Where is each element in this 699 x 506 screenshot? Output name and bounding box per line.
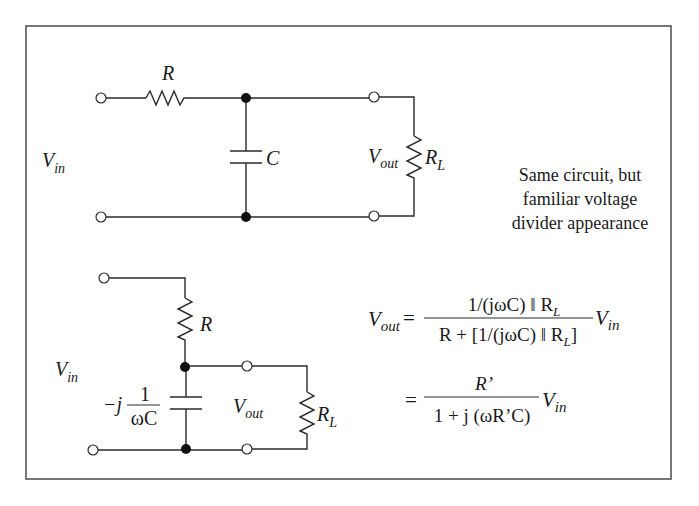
- impedance-denominator: ωC: [131, 407, 158, 429]
- circuit-diagram: R C Vin Vout RL Same circuit, but famili…: [0, 0, 699, 506]
- input-terminal-bottom: [96, 212, 106, 222]
- input-terminal-top: [96, 93, 106, 103]
- caption-line: familiar voltage: [523, 189, 637, 209]
- bottom-circuit: R Vin Vout RL −j 1 ωC: [55, 273, 337, 455]
- capacitor-label: C: [266, 147, 280, 169]
- eq2-denominator: 1 + j (ωR’C): [434, 405, 531, 427]
- junction-node: [180, 362, 190, 372]
- vin-label: Vin: [55, 358, 78, 385]
- output-terminal-bottom: [242, 444, 252, 454]
- caption-line: Same circuit, but: [519, 165, 641, 185]
- vout-label: Vout: [233, 395, 264, 421]
- rl-label: RL: [316, 403, 337, 430]
- junction-node: [181, 444, 191, 454]
- capacitor-icon: [170, 366, 202, 449]
- output-terminal-bottom: [369, 211, 379, 221]
- eq1-multiplier: Vin: [595, 306, 620, 333]
- wire: [109, 278, 185, 298]
- resistor-label: R: [161, 62, 174, 84]
- resistor-rl-icon: [379, 136, 421, 216]
- junction-node: [241, 93, 251, 103]
- impedance-numerator: 1: [140, 383, 150, 405]
- eq1-numerator: 1/(jωC) ‖ RL: [468, 294, 561, 319]
- caption-line: divider appearance: [512, 213, 648, 233]
- eq1-equals: =: [403, 306, 415, 330]
- eq2-numerator: R’: [474, 373, 493, 394]
- eq1-denominator: R + [1/(jωC) ‖ RL]: [439, 324, 577, 349]
- resistor-r-icon: [178, 298, 192, 366]
- wire: [379, 97, 414, 136]
- eq2-equals: =: [405, 388, 417, 412]
- vin-label: Vin: [42, 149, 65, 176]
- wire: [252, 366, 307, 392]
- resistor-r-icon: [146, 91, 187, 105]
- output-terminal-top: [242, 361, 252, 371]
- input-terminal-bottom: [88, 445, 98, 455]
- eq-lhs: Vout: [368, 307, 401, 334]
- input-terminal-top: [99, 273, 109, 283]
- caption: Same circuit, but familiar voltage divid…: [512, 165, 648, 233]
- eq2-multiplier: Vin: [542, 388, 567, 415]
- capacitor-c-icon: [230, 98, 262, 217]
- junction-node: [241, 212, 251, 222]
- vout-label: Vout: [368, 145, 399, 171]
- figure-frame: [26, 26, 671, 479]
- output-terminal-top: [369, 92, 379, 102]
- rl-label: RL: [424, 146, 445, 173]
- equations: Vout = 1/(jωC) ‖ RL R + [1/(jωC) ‖ RL] V…: [368, 294, 620, 427]
- impedance-prefix: −j: [103, 393, 122, 416]
- resistor-label: R: [199, 313, 212, 335]
- top-circuit: R C Vin Vout RL: [42, 62, 445, 222]
